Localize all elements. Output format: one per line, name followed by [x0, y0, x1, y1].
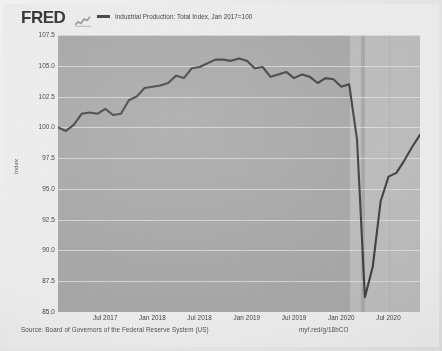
y-tick-label-100.0: 100.0 [5, 123, 55, 130]
y-axis: Index 107.5105.0102.5100.097.595.092.590… [3, 35, 55, 312]
y-tick-label-107.5: 107.5 [5, 31, 55, 38]
y-tick-label-90.0: 90.0 [5, 246, 55, 253]
y-tick-label-87.5: 87.5 [5, 277, 55, 284]
y-tick-label-105.0: 105.0 [5, 62, 55, 69]
fred-logo[interactable]: FRED [21, 9, 65, 26]
legend-swatch-series-1 [97, 15, 110, 18]
plot-canvas[interactable] [58, 35, 420, 312]
screenshot-frame: FRED Industrial Production: Total Index,… [0, 0, 442, 351]
x-tick-label-Jul-2018: Jul 2018 [187, 314, 212, 321]
fred-chart-page: FRED Industrial Production: Total Index,… [3, 4, 439, 347]
y-tick-label-85.0: 85.0 [5, 308, 55, 315]
chart-footer: Source: Board of Governors of the Federa… [3, 326, 439, 342]
source-note: Source: Board of Governors of the Federa… [21, 326, 209, 333]
chart-header: FRED Industrial Production: Total Index,… [3, 4, 439, 30]
y-tick-label-97.5: 97.5 [5, 154, 55, 161]
y-tick-label-92.5: 92.5 [5, 216, 55, 223]
y-tick-label-102.5: 102.5 [5, 93, 55, 100]
chart-area: Index 107.5105.0102.5100.097.595.092.590… [3, 30, 439, 320]
sparkline-icon [75, 13, 91, 24]
x-tick-label-Jul-2019: Jul 2019 [282, 314, 307, 321]
y-axis-title: Index [12, 147, 19, 187]
legend-label-series-1: Industrial Production: Total Index, Jan … [115, 13, 252, 20]
x-tick-label-Jul-2017: Jul 2017 [93, 314, 118, 321]
x-tick-label-Jan-2018: Jan 2018 [139, 314, 166, 321]
x-tick-label-Jan-2020: Jan 2020 [328, 314, 355, 321]
short-link[interactable]: myf.red/g/18bCO [299, 326, 348, 333]
chart-legend[interactable]: Industrial Production: Total Index, Jan … [97, 13, 252, 20]
y-tick-label-95.0: 95.0 [5, 185, 55, 192]
series-line-industrial-production [58, 35, 420, 312]
x-tick-label-Jan-2019: Jan 2019 [233, 314, 260, 321]
x-tick-label-Jul-2020: Jul 2020 [376, 314, 401, 321]
